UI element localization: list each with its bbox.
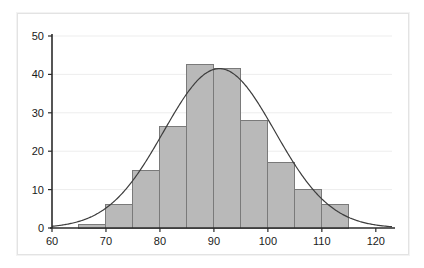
bar-100-105 (268, 163, 295, 228)
x-axis-tick-labels: 60708090100110120 (46, 235, 385, 247)
histogram-plot: 60708090100110120 01020304050 (0, 0, 424, 268)
bar-70-75 (106, 205, 133, 228)
x-tick-label-70: 70 (100, 235, 112, 247)
x-tick-label-60: 60 (46, 235, 58, 247)
y-tick-label-0: 0 (38, 222, 44, 234)
x-tick-label-120: 120 (367, 235, 385, 247)
bar-95-100 (241, 120, 268, 228)
y-tick-label-10: 10 (32, 184, 44, 196)
x-tick-label-110: 110 (313, 235, 331, 247)
y-axis-tick-labels: 01020304050 (32, 30, 44, 234)
x-tick-label-100: 100 (259, 235, 277, 247)
chart-figure: 60708090100110120 01020304050 (0, 0, 424, 268)
x-tick-label-80: 80 (154, 235, 166, 247)
bar-80-85 (160, 126, 187, 228)
y-tick-label-40: 40 (32, 68, 44, 80)
bar-75-80 (133, 170, 160, 228)
bar-90-95 (214, 69, 241, 228)
y-tick-label-50: 50 (32, 30, 44, 42)
x-tick-label-90: 90 (208, 235, 220, 247)
y-tick-label-30: 30 (32, 107, 44, 119)
bars-group (79, 65, 349, 228)
y-tick-label-20: 20 (32, 145, 44, 157)
bar-110-115 (322, 205, 349, 228)
bar-85-90 (187, 65, 214, 228)
